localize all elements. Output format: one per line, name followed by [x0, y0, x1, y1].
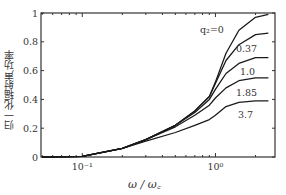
series-label: 1.0	[240, 66, 255, 77]
plot-frame	[41, 13, 275, 157]
series-line	[42, 58, 268, 157]
x-tick-label: 10⁻¹	[72, 161, 93, 172]
series-label: 3.7	[238, 109, 253, 120]
series-label: 1.85	[236, 87, 257, 98]
line-chart: 00.20.40.60.8110⁻¹10⁰q₂=00.371.01.853.7	[0, 0, 286, 195]
x-tick-label: 10⁰	[207, 161, 223, 172]
y-tick-label: 0.2	[23, 123, 38, 134]
y-tick-label: 1	[32, 8, 38, 19]
series-line	[42, 78, 268, 157]
series-label: q₂=0	[200, 24, 224, 35]
x-axis-label: ω / ω꜀	[128, 176, 161, 191]
y-tick-label: 0.8	[23, 36, 38, 47]
y-tick-label: 0.4	[23, 94, 38, 105]
series-line	[42, 101, 268, 157]
series-label: 0.37	[236, 43, 257, 54]
y-tick-label: 0.6	[23, 65, 38, 76]
y-axis-label: 归一化辐射声功率	[2, 40, 18, 140]
y-tick-label: 0	[32, 152, 38, 163]
